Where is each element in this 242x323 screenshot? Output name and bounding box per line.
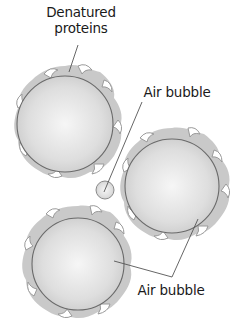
- label-air-bubble-bottom: Air bubble: [128, 282, 214, 298]
- label-air-bubble-middle: Air bubble: [134, 84, 220, 100]
- protein-layer-right: [120, 128, 229, 240]
- air-bubble-bottom-left: [32, 218, 124, 310]
- air-bubble-right: [125, 139, 219, 233]
- label-denatured-proteins-line1: Denatured: [38, 4, 124, 20]
- protein-layer-top-left: [14, 65, 121, 178]
- air-bubble-top-left: [17, 76, 113, 172]
- foam-diagram: [0, 0, 242, 323]
- label-denatured-proteins: Denatured proteins: [38, 4, 124, 36]
- label-denatured-proteins-line2: proteins: [38, 20, 124, 36]
- protein-layer-bottom-left: [22, 206, 131, 318]
